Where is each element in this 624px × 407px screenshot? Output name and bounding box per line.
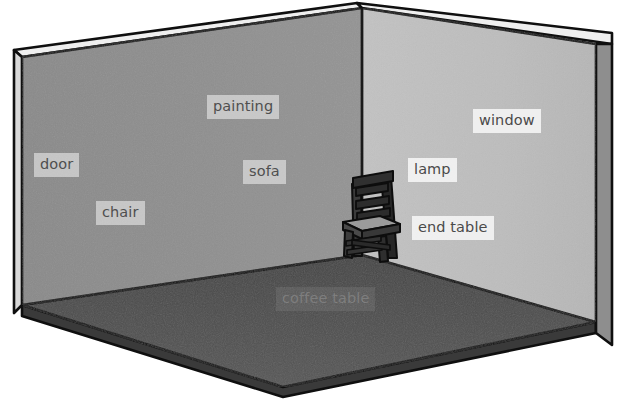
right-wall-end-edge [596, 44, 612, 345]
label-sofa: sofa [243, 160, 286, 184]
room-perspective-illustration [0, 0, 624, 407]
label-window: window [473, 109, 541, 133]
label-door: door [34, 153, 79, 177]
label-coffee-table: coffee table [276, 287, 375, 311]
label-chair: chair [96, 201, 145, 225]
label-end-table: end table [412, 216, 494, 240]
label-lamp: lamp [408, 158, 457, 182]
label-painting: painting [207, 95, 279, 119]
